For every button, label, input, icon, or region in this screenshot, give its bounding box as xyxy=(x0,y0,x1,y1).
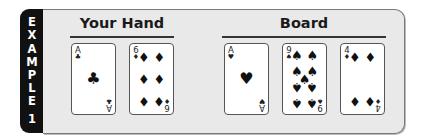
spade-pip-icon: ♠ xyxy=(306,80,318,93)
card-six-of-diamonds: 6♦6♦♦♦♦♦♦♦ xyxy=(129,43,174,115)
card-index: A♣ xyxy=(74,47,82,61)
spade-pip-icon: ♠ xyxy=(291,96,303,109)
diamond-pip-icon: ♦ xyxy=(364,50,376,63)
your-hand-divider xyxy=(70,36,174,38)
heart-icon: ♥ xyxy=(227,54,235,61)
board-divider xyxy=(222,36,386,38)
spade-pip-icon: ♠ xyxy=(291,80,303,93)
spade-pip-icon: ♠ xyxy=(291,49,303,62)
diamond-pip-icon: ♦ xyxy=(138,73,150,86)
card-index: A♣ xyxy=(105,97,113,111)
label-letter: X xyxy=(28,29,37,42)
card-nine-of-spades: 9♠9♠♠♠♠♠♠♠♠♠♠ xyxy=(282,43,327,115)
club-icon: ♣ xyxy=(74,54,82,61)
club-icon: ♣ xyxy=(105,97,113,104)
label-letter: E xyxy=(28,95,36,108)
card-four-of-diamonds: 4♦4♦♦♦♦♦ xyxy=(340,43,385,115)
diamond-pip-icon: ♦ xyxy=(349,50,361,63)
card-index: A♥ xyxy=(258,97,266,111)
card-ace-of-hearts: A♥A♥♥ xyxy=(224,43,269,115)
heart-pip-icon: ♥ xyxy=(239,71,253,87)
spade-pip-icon: ♠ xyxy=(306,49,318,62)
diamond-pip-icon: ♦ xyxy=(153,50,165,63)
your-hand-heading: Your Hand xyxy=(70,15,174,31)
card-index: A♥ xyxy=(227,47,235,61)
board-heading: Board xyxy=(222,15,386,31)
label-letter: A xyxy=(28,43,37,56)
heart-icon: ♥ xyxy=(258,97,266,104)
card-rank: A xyxy=(258,104,266,111)
example-label-tab: E X A M P L E 1 xyxy=(20,9,44,133)
card-ace-of-clubs: A♣A♣♣ xyxy=(71,43,116,115)
example-panel: Your Hand A♣A♣♣ 6♦6♦♦♦♦♦♦♦ Board A♥A♥♥ 9… xyxy=(43,9,405,134)
diamond-pip-icon: ♦ xyxy=(138,50,150,63)
diamond-pip-icon: ♦ xyxy=(153,73,165,86)
diamond-pip-icon: ♦ xyxy=(349,95,361,108)
club-pip-icon: ♣ xyxy=(86,71,100,87)
diamond-pip-icon: ♦ xyxy=(153,95,165,108)
card-rank: A xyxy=(105,104,113,111)
spade-pip-icon: ♠ xyxy=(306,96,318,109)
label-number: 1 xyxy=(28,113,36,126)
diamond-pip-icon: ♦ xyxy=(364,95,376,108)
diamond-pip-icon: ♦ xyxy=(138,95,150,108)
